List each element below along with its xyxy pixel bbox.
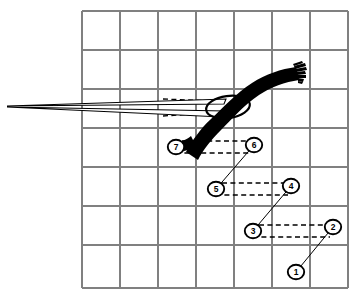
marker-5[interactable]: 5: [208, 182, 224, 196]
markers: 1 2 3 4 5 6 7: [168, 138, 341, 279]
diagram-figure: 1 2 3 4 5 6 7: [0, 0, 364, 304]
marker-label: 2: [331, 222, 336, 232]
marker-label: 7: [174, 142, 179, 152]
marker-6[interactable]: 6: [246, 138, 262, 152]
diagram-canvas: 1 2 3 4 5 6 7: [0, 0, 364, 304]
marker-label: 6: [252, 140, 257, 150]
wedge-lower-blade: [7, 107, 225, 117]
marker-label: 5: [214, 184, 219, 194]
pointer-wedge: [7, 99, 226, 117]
fray-stroke: [297, 75, 306, 78]
grid: [82, 11, 348, 288]
marker-2[interactable]: 2: [325, 220, 341, 234]
marker-7[interactable]: 7: [168, 140, 184, 154]
wedge-upper-blade: [7, 99, 226, 106]
marker-label: 1: [294, 267, 299, 277]
marker-1[interactable]: 1: [288, 265, 304, 279]
marker-label: 4: [289, 181, 294, 191]
bar-1-2: [296, 227, 333, 272]
marker-3[interactable]: 3: [245, 224, 261, 238]
marker-4[interactable]: 4: [283, 179, 299, 193]
marker-label: 3: [251, 226, 256, 236]
